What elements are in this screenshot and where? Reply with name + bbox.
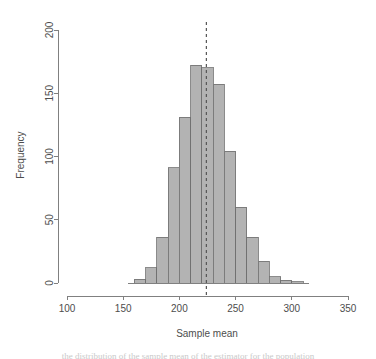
histogram-bar xyxy=(224,151,235,283)
y-axis-tick-label: 200 xyxy=(44,21,55,38)
y-axis-tick-label: 150 xyxy=(44,84,55,101)
histogram-figure: 050100150200 100150200250300350 Sample m… xyxy=(0,0,376,359)
y-axis-tick-label: 0 xyxy=(44,280,55,286)
histogram-bar xyxy=(247,237,258,283)
histogram-bar xyxy=(269,277,280,283)
histogram-bar xyxy=(202,68,213,283)
histogram-bar xyxy=(179,117,190,283)
x-axis-tick-label: 200 xyxy=(171,303,188,314)
x-axis-tick-label: 150 xyxy=(115,303,132,314)
x-axis-title: Sample mean xyxy=(176,328,238,339)
histogram-bar xyxy=(258,261,269,283)
histogram-bar xyxy=(134,279,145,283)
y-axis-tick-label: 50 xyxy=(44,214,55,226)
x-axis-tick-label: 250 xyxy=(227,303,244,314)
x-axis-tick-label: 300 xyxy=(283,303,300,314)
y-axis-title: Frequency xyxy=(15,131,26,178)
histogram-bar xyxy=(168,168,179,283)
page-caption: the distribution of the sample mean of t… xyxy=(0,351,376,359)
x-axis-tick-label: 100 xyxy=(59,303,76,314)
histogram-bar xyxy=(146,268,157,283)
histogram-bar xyxy=(157,237,168,283)
y-axis-tick-label: 100 xyxy=(44,148,55,165)
x-axis-tick-label: 350 xyxy=(340,303,357,314)
x-axis: 100150200250300350 xyxy=(59,296,357,314)
histogram-bar xyxy=(213,84,224,283)
y-axis: 050100150200 xyxy=(44,21,58,286)
histogram-bar xyxy=(191,65,202,283)
histogram-plot: 050100150200 100150200250300350 Sample m… xyxy=(0,0,376,359)
bars-group xyxy=(128,65,309,283)
histogram-bar xyxy=(236,207,247,283)
